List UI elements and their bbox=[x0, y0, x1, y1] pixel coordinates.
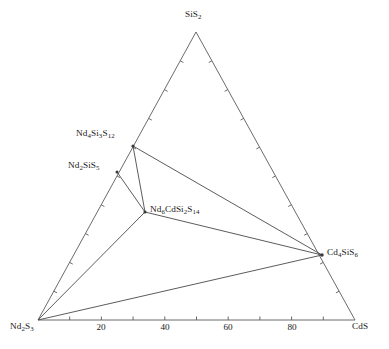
tick-right-90 bbox=[209, 61, 212, 63]
tie-line-Nd2S3-Cd4SiS6 bbox=[38, 255, 322, 320]
tie-lines bbox=[38, 146, 322, 320]
phase-label-Cd4SiS6: Cd4SiS6 bbox=[327, 248, 358, 258]
ternary-diagram-canvas bbox=[0, 0, 389, 349]
corner-label-Nd2S3: Nd2S3 bbox=[10, 322, 34, 332]
tie-line-Nd4Si3S12-Nd6CdSi2S14 bbox=[133, 146, 145, 212]
phase-label-Nd6CdSi2S14: Nd6CdSi2S14 bbox=[150, 205, 200, 215]
tie-line-Nd2SiS5-Nd6CdSi2S14 bbox=[117, 172, 145, 212]
tie-line-Nd6CdSi2S14-Cd4SiS6 bbox=[145, 212, 322, 255]
axis-tick-label-40: 40 bbox=[155, 322, 175, 332]
tick-right-10 bbox=[336, 291, 339, 293]
tick-left-80 bbox=[164, 90, 167, 92]
node-Nd4Si3S12 bbox=[131, 144, 134, 147]
tick-right-50 bbox=[272, 176, 275, 178]
bottom-axis-ticks bbox=[70, 317, 324, 321]
node-Nd6CdSi2S14 bbox=[143, 210, 146, 213]
node-Nd2SiS5 bbox=[116, 171, 119, 174]
tick-right-40 bbox=[288, 205, 291, 207]
tie-line-Nd4Si3S12-Cd4SiS6 bbox=[133, 146, 322, 255]
tie-line-Nd6CdSi2S14-Nd2S3 bbox=[38, 212, 145, 320]
tick-right-80 bbox=[225, 90, 228, 92]
phase-nodes bbox=[116, 144, 324, 256]
right-edge-ticks bbox=[209, 61, 339, 293]
axis-tick-label-20: 20 bbox=[91, 322, 111, 332]
tick-right-70 bbox=[241, 118, 244, 120]
corner-label-CdS: CdS bbox=[352, 322, 368, 332]
phase-label-Nd2SiS5: Nd2SiS5 bbox=[68, 161, 100, 171]
tick-left-40 bbox=[101, 205, 104, 207]
tick-right-60 bbox=[256, 147, 259, 149]
tick-right-30 bbox=[304, 234, 307, 236]
phase-label-Nd4Si3S12: Nd4Si3S12 bbox=[76, 129, 115, 139]
tick-left-30 bbox=[85, 234, 88, 236]
axis-tick-label-80: 80 bbox=[282, 322, 302, 332]
tick-left-10 bbox=[54, 291, 57, 293]
corner-label-SiS2: SiS2 bbox=[185, 10, 202, 20]
node-Cd4SiS6 bbox=[320, 253, 323, 256]
left-edge-ticks bbox=[54, 61, 184, 293]
triangle-edges bbox=[38, 32, 355, 320]
axis-tick-label-60: 60 bbox=[218, 322, 238, 332]
ternary-phase-diagram: SiS2 Nd2S3 CdS Nd4Si3S12 Nd2SiS5 Nd6CdSi… bbox=[0, 0, 389, 349]
tick-right-20 bbox=[320, 262, 323, 264]
tick-left-20 bbox=[70, 262, 73, 264]
tick-left-90 bbox=[180, 61, 183, 63]
tick-left-70 bbox=[149, 118, 152, 120]
